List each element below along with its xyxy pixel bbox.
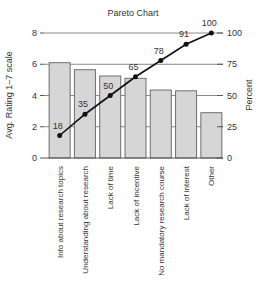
line-marker xyxy=(108,93,113,98)
left-tick-label: 0 xyxy=(32,153,37,163)
left-axis-ticks: 02468 xyxy=(32,28,44,163)
bar xyxy=(176,91,197,158)
bar xyxy=(49,63,70,158)
cumulative-percent-label: 50 xyxy=(103,81,113,91)
category-label: Lack of interest xyxy=(182,165,191,220)
left-tick-label: 6 xyxy=(32,59,37,69)
bar xyxy=(201,113,222,158)
right-tick-label: 50 xyxy=(227,91,237,101)
line-marker xyxy=(57,133,62,138)
category-label: Understanding about research xyxy=(81,166,90,274)
right-tick-label: 75 xyxy=(227,59,237,69)
cumulative-percent-label: 91 xyxy=(179,29,189,39)
category-labels: Info about research topicsUnderstanding … xyxy=(56,165,217,276)
left-tick-label: 8 xyxy=(32,28,37,38)
category-label: Lack of incentive xyxy=(132,165,141,225)
chart-title: Pareto Chart xyxy=(107,8,159,18)
line-marker xyxy=(82,112,87,117)
right-tick-label: 0 xyxy=(227,153,232,163)
cumulative-percent-label: 35 xyxy=(78,99,88,109)
line-marker xyxy=(133,74,138,79)
cumulative-percent-label: 65 xyxy=(128,62,138,72)
left-axis-title: Avg. Rating 1–7 scale xyxy=(4,51,14,138)
bar xyxy=(150,90,171,158)
left-tick-label: 4 xyxy=(32,91,37,101)
line-marker xyxy=(209,31,214,36)
cumulative-percent-label: 100 xyxy=(202,18,217,28)
line-marker xyxy=(158,58,163,63)
category-label: Info about research topics xyxy=(56,166,65,258)
category-label: Other xyxy=(207,166,216,186)
cumulative-percent-label: 18 xyxy=(53,121,63,131)
pareto-chart: Pareto Chart 02468 0255075100 Avg. Ratin… xyxy=(0,0,265,300)
right-tick-label: 100 xyxy=(227,28,242,38)
category-label: No mandatory research course xyxy=(157,165,166,275)
right-tick-label: 25 xyxy=(227,122,237,132)
bar xyxy=(125,78,146,158)
cumulative-percent-label: 78 xyxy=(154,46,164,56)
right-axis-title: Percent xyxy=(244,79,254,111)
line-marker xyxy=(184,42,189,47)
left-tick-label: 2 xyxy=(32,122,37,132)
category-label: Lack of time xyxy=(106,165,115,209)
